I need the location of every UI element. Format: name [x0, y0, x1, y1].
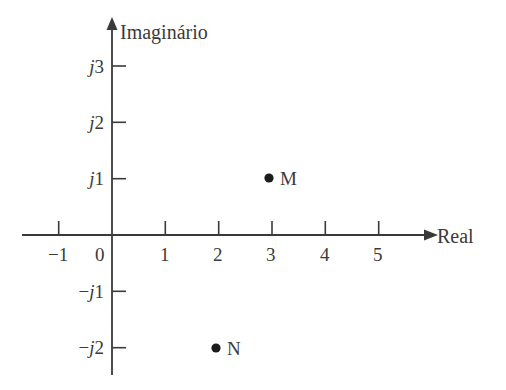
y-tick-label-j3: j3	[66, 57, 104, 76]
data-point-label-n: N	[227, 339, 241, 358]
x-tick-label--1: −1	[48, 245, 68, 264]
y-tick-label-minus-j1-sign: −	[79, 281, 90, 302]
y-tick-label-minus-j1-num: 1	[95, 281, 105, 302]
y-tick-label-minus-j1: −j1	[58, 282, 104, 301]
x-tick-label-5: 5	[373, 245, 383, 264]
y-tick-label-j2: j2	[66, 113, 104, 132]
x-tick-label-3: 3	[266, 245, 276, 264]
y-tick-label-j1-num: 1	[95, 168, 105, 189]
x-tick-label-0: 0	[95, 245, 105, 264]
y-tick-label-j3-num: 3	[95, 56, 105, 77]
real-axis-arrowhead	[424, 230, 438, 241]
y-tick-label-minus-j2-num: 2	[95, 337, 105, 358]
y-tick-label-minus-j2-sign: −	[79, 337, 90, 358]
imaginary-axis-arrowhead	[107, 17, 118, 30]
x-tick-label-2: 2	[213, 245, 223, 264]
x-tick-label-4: 4	[320, 245, 330, 264]
imaginary-axis-title: Imaginário	[120, 22, 208, 42]
y-tick-label-minus-j2: −j2	[58, 338, 104, 357]
data-point-n[interactable]	[211, 343, 220, 352]
complex-plane-figure: Imaginário Real −1 0 1 2 3 4 5 j3 j2 j1 …	[0, 0, 506, 390]
x-tick-label-1: 1	[160, 245, 170, 264]
y-tick-label-j1: j1	[66, 169, 104, 188]
y-tick-label-j2-num: 2	[95, 112, 105, 133]
data-point-label-m: M	[280, 169, 297, 188]
data-point-m[interactable]	[264, 173, 273, 182]
real-axis-title: Real	[437, 226, 474, 246]
